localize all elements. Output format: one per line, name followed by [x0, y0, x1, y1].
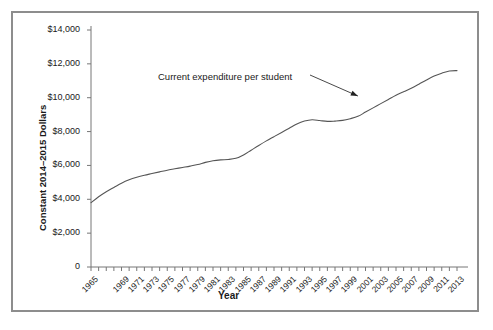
annotation-arrow-head [350, 91, 358, 96]
data-line-current-expenditure [91, 71, 457, 203]
chart-figure-frame: Constant 2014–2015 Dollars Year Current … [11, 11, 479, 312]
chart-svg [13, 13, 481, 314]
annotation-leader-line [310, 75, 358, 96]
chart-axes [91, 26, 468, 267]
annotation-arrow [310, 75, 358, 96]
chart-plot-area: Constant 2014–2015 Dollars Year Current … [13, 13, 477, 310]
chart-tick-marks [87, 30, 457, 271]
